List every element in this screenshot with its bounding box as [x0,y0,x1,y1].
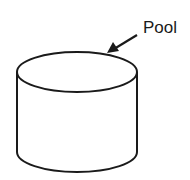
cylinder-top [17,52,137,92]
cylinder-bottom [17,152,137,172]
arrow-icon [107,35,137,53]
pool-label: Pool [143,18,177,37]
pool-diagram: Pool [0,0,190,180]
cylinder-icon [17,52,137,172]
